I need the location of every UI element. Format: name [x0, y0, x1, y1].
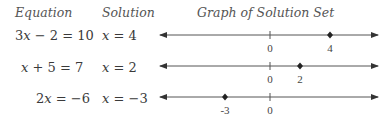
- tick-label: 4: [327, 42, 333, 54]
- tick-label: 0: [267, 104, 273, 116]
- solution-point: [222, 94, 228, 101]
- tick-label: 0: [267, 73, 273, 85]
- tick-label: 0: [267, 42, 273, 54]
- tick-label: -3: [220, 104, 230, 116]
- tick-label: 2: [297, 73, 303, 85]
- number-lines: 0402-30: [0, 0, 391, 125]
- solution-point: [297, 63, 303, 70]
- solution-point: [327, 32, 333, 39]
